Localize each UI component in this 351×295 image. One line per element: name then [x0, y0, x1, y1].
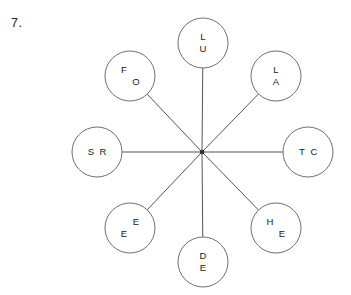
spoke-lower-right [202, 152, 259, 210]
diagram-page: 7. LULATCHEDEEESRFO [0, 0, 351, 295]
node-upper-left-letter-1: O [132, 76, 139, 87]
node-lower-left-circle [105, 203, 155, 253]
node-left-letter-1: R [100, 146, 107, 157]
node-lower-left[interactable]: EE [105, 203, 155, 253]
node-right[interactable]: TC [283, 127, 333, 177]
spoke-top [202, 68, 203, 152]
node-lower-right-letter-0: H [267, 216, 274, 227]
node-left[interactable]: SR [72, 127, 122, 177]
spoke-upper-right [202, 94, 259, 152]
node-right-letter-1: C [311, 146, 318, 157]
spoke-upper-left [147, 94, 202, 152]
node-upper-left[interactable]: FO [105, 51, 155, 101]
node-lower-left-letter-1: E [121, 228, 127, 239]
radial-spoke-diagram: LULATCHEDEEESRFO [0, 0, 351, 295]
node-lower-right-letter-1: E [279, 228, 285, 239]
node-lower-right[interactable]: HE [251, 203, 301, 253]
node-top-letter-1: U [200, 43, 207, 54]
node-bottom-letter-0: D [200, 250, 207, 261]
hub-center-dot [200, 150, 204, 154]
node-upper-right-letter-0: L [273, 64, 278, 75]
node-upper-right-letter-1: A [273, 76, 280, 87]
node-upper-left-letter-0: F [121, 64, 127, 75]
node-left-letter-0: S [88, 146, 94, 157]
spoke-bottom [202, 152, 203, 237]
node-upper-right[interactable]: LA [251, 51, 301, 101]
node-lower-left-letter-0: E [133, 216, 139, 227]
node-right-letter-0: T [299, 146, 305, 157]
node-bottom[interactable]: DE [178, 237, 228, 287]
node-bottom-letter-1: E [200, 262, 206, 273]
node-right-circle [283, 127, 333, 177]
node-top-letter-0: L [200, 31, 205, 42]
spoke-lower-left [147, 152, 202, 210]
node-upper-left-circle [105, 51, 155, 101]
node-top[interactable]: LU [178, 18, 228, 68]
node-left-circle [72, 127, 122, 177]
node-lower-right-circle [251, 203, 301, 253]
